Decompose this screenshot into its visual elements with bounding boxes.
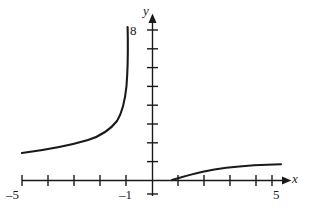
x-axis-label: x — [292, 172, 298, 185]
y-tick-label-8: 8 — [130, 24, 137, 37]
curve-right-branch — [172, 164, 281, 180]
y-tick-label--1: –1 — [119, 188, 132, 201]
y-axis — [147, 22, 158, 196]
graph-figure: y x 8 –5 –1 5 — [0, 0, 309, 214]
y-axis-label: y — [143, 4, 149, 17]
x-tick-label--5: –5 — [6, 188, 19, 201]
plot-canvas — [0, 0, 309, 214]
curve-left-branch — [22, 27, 128, 153]
x-tick-label-5: 5 — [273, 188, 280, 201]
